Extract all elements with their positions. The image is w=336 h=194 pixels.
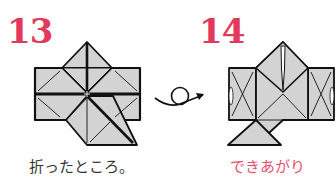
turn-over-arrow-icon	[155, 88, 204, 106]
step-13-folded-model	[35, 42, 140, 145]
step-14-caption: できあがり	[230, 160, 305, 175]
step-13-caption: 折ったところ。	[29, 160, 134, 175]
step-14-finished-model	[228, 42, 334, 145]
